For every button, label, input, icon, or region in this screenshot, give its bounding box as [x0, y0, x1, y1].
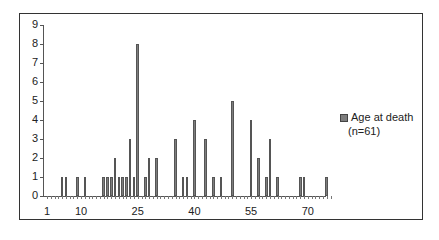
x-tick — [176, 196, 177, 199]
x-tick — [266, 196, 267, 199]
bar — [121, 177, 124, 196]
x-tick — [274, 196, 275, 199]
bar — [133, 177, 136, 196]
x-tick — [55, 196, 56, 199]
x-tick — [92, 196, 93, 199]
bar — [114, 158, 117, 196]
x-tick — [217, 196, 218, 199]
bar — [125, 177, 128, 196]
legend-label: Age at death — [351, 111, 413, 123]
y-tick — [40, 44, 44, 45]
x-tick — [206, 196, 207, 199]
x-tick — [232, 196, 233, 199]
x-tick — [183, 196, 184, 199]
x-tick — [213, 196, 214, 199]
bar — [212, 177, 215, 196]
x-tick — [308, 196, 309, 199]
bar — [193, 120, 196, 196]
bar — [231, 101, 234, 196]
x-tick — [323, 196, 324, 199]
bar — [250, 120, 253, 196]
y-tick — [40, 120, 44, 121]
y-tick — [40, 158, 44, 159]
legend-swatch-icon — [340, 114, 348, 122]
x-tick — [259, 196, 260, 199]
y-tick-label: 7 — [24, 56, 38, 68]
x-tick — [89, 196, 90, 199]
x-tick — [104, 196, 105, 199]
bar — [110, 177, 113, 196]
x-tick — [85, 196, 86, 199]
x-tick — [96, 196, 97, 199]
x-tick — [111, 196, 112, 199]
y-tick-label: 0 — [24, 189, 38, 201]
bar — [269, 139, 272, 196]
x-tick — [77, 196, 78, 199]
x-tick — [285, 196, 286, 199]
x-tick-label: 10 — [75, 205, 87, 217]
x-tick — [107, 196, 108, 199]
y-tick-label: 4 — [24, 113, 38, 125]
x-tick — [210, 196, 211, 199]
x-tick — [315, 196, 316, 199]
x-tick — [255, 196, 256, 199]
bar — [174, 139, 177, 196]
y-tick — [40, 101, 44, 102]
bar — [144, 177, 147, 196]
x-tick — [319, 196, 320, 199]
x-tick — [202, 196, 203, 199]
x-tick-label: 70 — [302, 205, 314, 217]
x-tick — [198, 196, 199, 199]
x-tick — [191, 196, 192, 199]
bar — [61, 177, 64, 196]
x-tick — [247, 196, 248, 199]
x-tick — [81, 196, 82, 199]
x-tick — [251, 196, 252, 199]
y-tick — [40, 25, 44, 26]
x-tick — [304, 196, 305, 199]
x-tick — [278, 196, 279, 199]
x-tick — [262, 196, 263, 199]
x-tick — [157, 196, 158, 199]
x-tick — [119, 196, 120, 199]
x-tick — [70, 196, 71, 199]
x-tick — [134, 196, 135, 199]
y-tick — [40, 139, 44, 140]
bar — [84, 177, 87, 196]
x-tick — [66, 196, 67, 199]
bar — [118, 177, 121, 196]
y-tick-label: 8 — [24, 37, 38, 49]
x-tick-label: 25 — [132, 205, 144, 217]
x-tick — [270, 196, 271, 199]
x-tick — [100, 196, 101, 199]
x-tick — [225, 196, 226, 199]
x-tick — [153, 196, 154, 199]
bar — [257, 158, 260, 196]
x-tick — [221, 196, 222, 199]
x-tick — [47, 196, 48, 199]
bar — [155, 158, 158, 196]
x-tick — [149, 196, 150, 199]
y-tick — [40, 177, 44, 178]
bar — [299, 177, 302, 196]
bar — [325, 177, 328, 196]
x-tick — [289, 196, 290, 199]
bar — [186, 177, 189, 196]
y-tick-label: 6 — [24, 75, 38, 87]
bar — [106, 177, 109, 196]
x-tick — [228, 196, 229, 199]
bar — [65, 177, 68, 196]
x-tick — [123, 196, 124, 199]
bar — [265, 177, 268, 196]
x-tick — [62, 196, 63, 199]
y-axis — [43, 25, 44, 196]
bar — [204, 139, 207, 196]
x-tick-label: 40 — [188, 205, 200, 217]
x-tick — [142, 196, 143, 199]
x-tick — [138, 196, 139, 199]
y-tick-label: 5 — [24, 94, 38, 106]
x-tick — [168, 196, 169, 199]
x-tick — [160, 196, 161, 199]
x-tick — [164, 196, 165, 199]
x-tick-label: 55 — [245, 205, 257, 217]
